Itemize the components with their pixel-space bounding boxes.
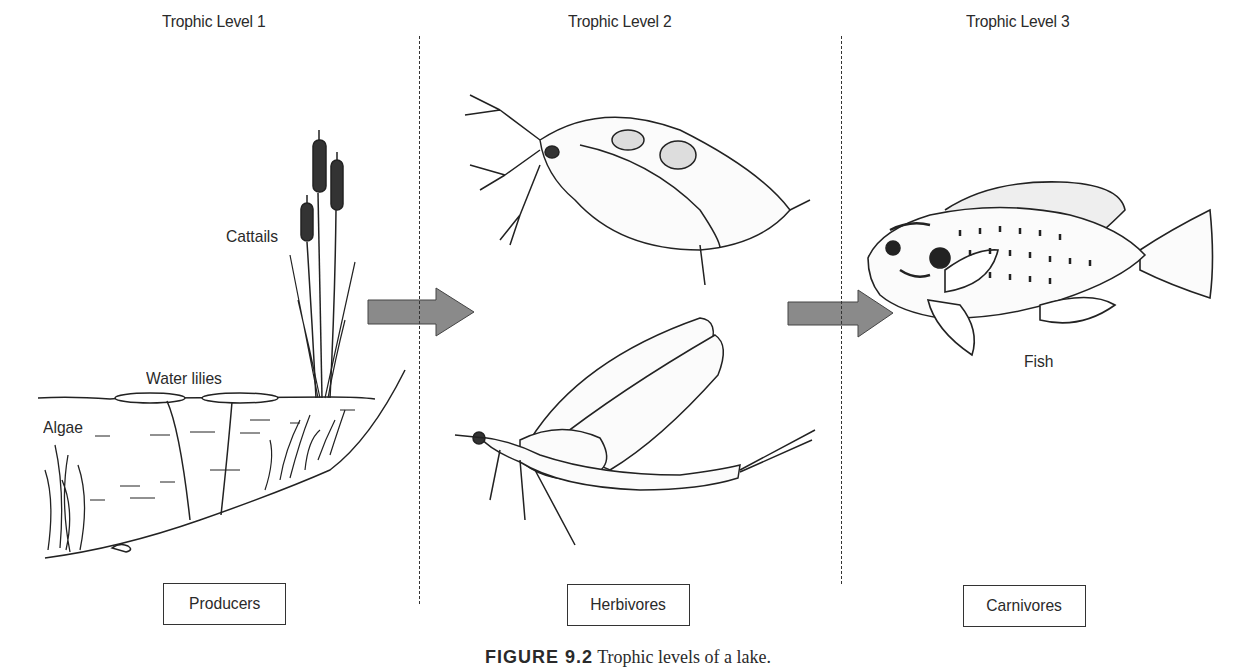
cattails-illustration	[290, 130, 355, 398]
cattails-label: Cattails	[226, 227, 278, 247]
arrow-level1-to-2	[368, 288, 474, 336]
trophic-level-3-title: Trophic Level 3	[966, 12, 1070, 32]
divider-2-3	[841, 36, 842, 584]
divider-1-2	[419, 36, 420, 604]
carnivores-label: Carnivores	[987, 596, 1063, 616]
figure-caption: FIGURE 9.2 Trophic levels of a lake.	[485, 647, 771, 668]
figure-caption-text: Trophic levels of a lake.	[597, 647, 771, 667]
herbivores-label: Herbivores	[591, 595, 667, 615]
fish-label: Fish	[1024, 352, 1054, 372]
trophic-level-2-title: Trophic Level 2	[568, 12, 672, 32]
carnivores-box: Carnivores	[963, 585, 1086, 627]
algae-label: Algae	[43, 418, 83, 438]
producers-label: Producers	[189, 594, 260, 614]
mayfly-illustration	[455, 318, 815, 545]
figure-number: FIGURE 9.2	[485, 647, 593, 667]
pond-illustration	[38, 370, 405, 558]
producers-box: Producers	[163, 583, 286, 625]
daphnia-illustration	[465, 95, 810, 285]
trophic-level-1-title: Trophic Level 1	[162, 12, 266, 32]
herbivores-box: Herbivores	[567, 584, 690, 626]
water-lilies-label: Water lilies	[146, 369, 222, 389]
fish-illustration	[868, 182, 1213, 355]
